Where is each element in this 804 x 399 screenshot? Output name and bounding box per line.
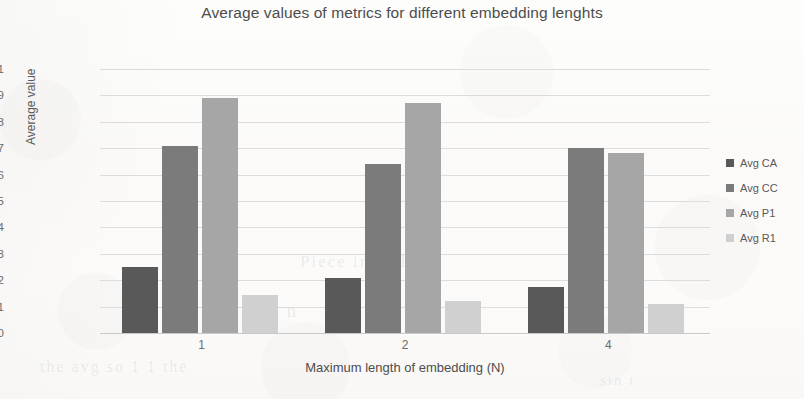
legend-label: Avg P1 [740, 207, 775, 219]
y-axis-tick-label: 0,6 [0, 169, 4, 181]
bar[interactable] [162, 146, 198, 333]
bar[interactable] [568, 148, 604, 333]
x-axis-tick-label: 1 [182, 338, 222, 352]
legend-swatch-icon [726, 184, 734, 192]
x-axis-line [100, 333, 710, 334]
y-axis-tick-label: 0,7 [0, 142, 4, 154]
legend-item[interactable]: Avg CC [726, 175, 804, 200]
legend-label: Avg CC [740, 182, 778, 194]
y-axis-tick-label: 0,5 [0, 195, 4, 207]
legend-label: Avg R1 [740, 232, 776, 244]
bar[interactable] [445, 301, 481, 333]
x-axis-title: Maximum length of embedding (N) [100, 360, 710, 375]
y-axis-tick-label: 0,8 [0, 116, 4, 128]
bar[interactable] [325, 278, 361, 333]
legend-swatch-icon [726, 209, 734, 217]
y-axis-tick-label: 0,9 [0, 89, 4, 101]
legend-swatch-icon [726, 159, 734, 167]
x-axis-tick-label: 2 [385, 338, 425, 352]
y-axis-title: Average value [24, 69, 38, 146]
y-axis-tick-label: 0,1 [0, 301, 4, 313]
bar[interactable] [405, 103, 441, 333]
chart-legend: Avg CAAvg CCAvg P1Avg R1 [726, 150, 804, 250]
y-axis-tick-label: 0,4 [0, 221, 4, 233]
plot-area: 00,10,20,30,40,50,60,70,80,91 [100, 69, 710, 333]
bar-group [122, 69, 282, 333]
bar[interactable] [202, 98, 238, 333]
legend-item[interactable]: Avg CA [726, 150, 804, 175]
legend-item[interactable]: Avg R1 [726, 225, 804, 250]
bar[interactable] [608, 153, 644, 333]
y-axis-tick-label: 0,3 [0, 248, 4, 260]
legend-swatch-icon [726, 234, 734, 242]
legend-item[interactable]: Avg P1 [726, 200, 804, 225]
bar-group [528, 69, 688, 333]
bar[interactable] [648, 304, 684, 333]
x-axis-tick-label: 4 [588, 338, 628, 352]
bar[interactable] [242, 295, 278, 333]
y-axis-tick-label: 0,2 [0, 274, 4, 286]
bar[interactable] [122, 267, 158, 333]
chart-title: Average values of metrics for different … [0, 4, 804, 22]
legend-label: Avg CA [740, 157, 777, 169]
y-axis-tick-label: 0 [0, 327, 4, 339]
y-axis-tick-label: 1 [0, 63, 4, 75]
bar[interactable] [365, 164, 401, 333]
bar-group [325, 69, 485, 333]
bar[interactable] [528, 287, 564, 333]
